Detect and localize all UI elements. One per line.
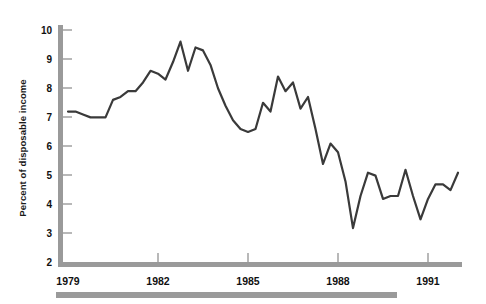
x-tick-label-1979: 1979 — [56, 275, 80, 287]
x-tick-label-1991: 1991 — [416, 275, 440, 287]
chart-figure: Percent of disposable income 10 9 8 7 6 … — [0, 0, 486, 304]
line-chart: Percent of disposable income 10 9 8 7 6 … — [0, 0, 486, 304]
y-tick-label-3: 3 — [46, 228, 52, 239]
y-tick-label-7: 7 — [46, 112, 52, 123]
data-series-line — [68, 42, 458, 228]
y-tick-label-4: 4 — [46, 199, 52, 210]
x-tick-label-1985: 1985 — [236, 275, 260, 287]
y-tick-label-6: 6 — [46, 141, 52, 152]
y-tick-label-9: 9 — [46, 54, 52, 65]
footer-rule — [56, 292, 397, 298]
x-tick-label-1982: 1982 — [146, 275, 170, 287]
x-tick-label-1988: 1988 — [326, 275, 350, 287]
y-axis-line — [58, 25, 63, 265]
y-axis-label: Percent of disposable income — [17, 79, 28, 216]
y-tick-label-10: 10 — [41, 25, 53, 36]
x-axis-line — [58, 262, 462, 267]
y-tick-label-8: 8 — [46, 83, 52, 94]
y-tick-label-2: 2 — [46, 257, 52, 268]
y-tick-label-5: 5 — [46, 170, 52, 181]
